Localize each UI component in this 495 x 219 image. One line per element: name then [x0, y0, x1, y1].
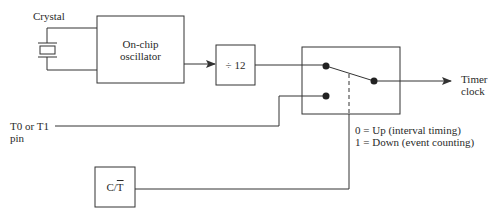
crystal-icon: [38, 28, 97, 70]
timer-clock-line2: clock: [461, 85, 488, 97]
switch-lever: [326, 66, 374, 81]
switch-contact-bottom: [323, 93, 330, 100]
switch-contact-top: [323, 63, 330, 70]
timer-clock-label: Timer clock: [461, 73, 488, 97]
t-pin-line: [55, 96, 326, 126]
legend-line2: 1 = Down (event counting): [355, 136, 474, 148]
switch-pivot: [371, 78, 378, 85]
oscillator-label: On-chip oscillator: [97, 38, 184, 62]
timer-clock-line1: Timer: [461, 73, 488, 85]
legend-line1: 0 = Up (interval timing): [355, 124, 474, 136]
oscillator-label-line1: On-chip: [97, 38, 184, 50]
t-pin-label: T0 or T1 pin: [10, 120, 49, 144]
diagram-canvas: [0, 0, 495, 219]
ct-label-t: T: [117, 181, 124, 193]
divider-label: ÷ 12: [216, 59, 255, 71]
oscillator-label-line2: oscillator: [97, 50, 184, 62]
ct-label-c: C/: [106, 181, 116, 193]
legend: 0 = Up (interval timing) 1 = Down (event…: [355, 124, 474, 148]
t-pin-line2: pin: [10, 132, 49, 144]
crystal-label: Crystal: [33, 10, 65, 22]
t-pin-line1: T0 or T1: [10, 120, 49, 132]
ct-label: C/T: [95, 181, 135, 193]
